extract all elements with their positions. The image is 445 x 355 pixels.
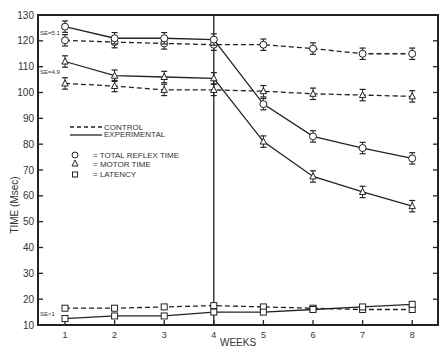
square-marker-icon bbox=[211, 309, 217, 315]
circle-marker-icon bbox=[359, 50, 366, 57]
x-axis-label: WEEKS bbox=[220, 337, 256, 348]
y-tick-label: 60 bbox=[23, 190, 35, 201]
square-marker-icon bbox=[62, 305, 68, 311]
se-total-annotation: SE=5.1 bbox=[40, 30, 61, 36]
x-tick-label: 7 bbox=[360, 330, 365, 340]
y-tick-label: 120 bbox=[17, 35, 34, 46]
se-motor-annotation: SE=4.9 bbox=[40, 69, 61, 75]
circle-marker-icon bbox=[310, 133, 317, 140]
circle-marker-icon bbox=[62, 23, 69, 30]
x-tick-label: 4 bbox=[211, 330, 216, 340]
x-tick-label: 1 bbox=[62, 330, 67, 340]
legend-square-icon bbox=[73, 172, 78, 177]
square-marker-icon bbox=[260, 309, 266, 315]
y-tick-label: 70 bbox=[23, 165, 35, 176]
circle-marker-icon bbox=[310, 45, 317, 52]
se-annotations: SE=5.1 SE=4.9 SE<1 bbox=[40, 30, 61, 317]
x-tick-label: 3 bbox=[162, 330, 167, 340]
circle-marker-icon bbox=[161, 35, 168, 42]
y-tick-label: 30 bbox=[23, 268, 35, 279]
y-tick-label: 50 bbox=[23, 216, 35, 227]
y-tick-label: 80 bbox=[23, 139, 35, 150]
circle-marker-icon bbox=[409, 50, 416, 57]
circle-marker-icon bbox=[260, 101, 267, 108]
y-axis-label: TIME (Msec) bbox=[9, 176, 20, 233]
circle-marker-icon bbox=[62, 37, 69, 44]
square-marker-icon bbox=[161, 313, 167, 319]
legend-circle-icon bbox=[72, 152, 78, 158]
x-tick-label: 2 bbox=[112, 330, 117, 340]
circle-marker-icon bbox=[359, 145, 366, 152]
square-marker-icon bbox=[409, 301, 415, 307]
x-tick-label: 8 bbox=[410, 330, 415, 340]
triangle-marker-icon bbox=[310, 173, 316, 179]
triangle-marker-icon bbox=[62, 58, 68, 64]
legend-experimental-label: EXPERIMENTAL bbox=[104, 130, 166, 139]
legend-latency-label: = LATENCY bbox=[93, 170, 137, 179]
circle-marker-icon bbox=[111, 35, 118, 42]
y-tick-label: 90 bbox=[23, 113, 35, 124]
square-marker-icon bbox=[310, 307, 316, 313]
y-tick-label: 10 bbox=[23, 320, 35, 331]
triangle-marker-icon bbox=[111, 83, 117, 89]
y-tick-label: 20 bbox=[23, 294, 35, 305]
y-tick-label: 110 bbox=[18, 61, 34, 72]
legend-motor-label: = MOTOR TIME bbox=[93, 160, 151, 169]
legend-triangle-icon bbox=[72, 160, 78, 166]
square-marker-icon bbox=[211, 303, 217, 309]
legend: CONTROL EXPERIMENTAL = TOTAL REFLEX TIME… bbox=[70, 123, 179, 179]
square-marker-icon bbox=[62, 316, 68, 322]
circle-marker-icon bbox=[210, 36, 217, 43]
square-marker-icon bbox=[360, 304, 366, 310]
legend-total-label: = TOTAL REFLEX TIME bbox=[93, 151, 179, 160]
x-tick-label: 6 bbox=[310, 330, 315, 340]
y-tick-label: 40 bbox=[23, 242, 35, 253]
y-tick-label: 130 bbox=[17, 10, 34, 21]
square-marker-icon bbox=[161, 304, 167, 310]
y-tick-label: 100 bbox=[17, 87, 34, 98]
se-latency-annotation: SE<1 bbox=[40, 311, 56, 317]
square-marker-icon bbox=[112, 305, 118, 311]
square-marker-icon bbox=[112, 313, 118, 319]
x-tick-label: 5 bbox=[261, 330, 266, 340]
circle-marker-icon bbox=[409, 155, 416, 162]
line-chart: 102030405060708090100110120130 12345678 … bbox=[0, 0, 445, 355]
circle-marker-icon bbox=[260, 41, 267, 48]
